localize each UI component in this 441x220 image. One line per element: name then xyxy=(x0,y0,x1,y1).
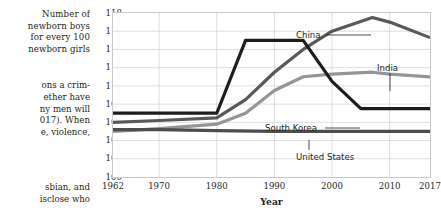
y-axis-title: Number of newborn boys for every 100 new… xyxy=(2,9,90,55)
body-text-line: ons a crim- xyxy=(2,80,90,92)
series-label-china: China xyxy=(296,31,321,40)
grid-lines xyxy=(113,13,430,177)
series-label-india: India xyxy=(377,64,398,73)
body-text-fragment: ons a crim- ether have ny men will 017).… xyxy=(2,80,90,139)
line-chart: 100102104106108110112114116118 196219701… xyxy=(96,0,433,220)
page-text-column: Number of newborn boys for every 100 new… xyxy=(0,0,96,220)
plot-svg xyxy=(113,13,430,177)
body-text-line: ny men will xyxy=(2,104,90,116)
x-axis-tick-label: 1970 xyxy=(148,182,170,191)
x-axis-title: Year xyxy=(112,196,431,207)
x-axis-tick-label: 1990 xyxy=(263,182,285,191)
y-axis-title-line: Number of xyxy=(2,9,90,21)
body-text-line: 017). When xyxy=(2,115,90,127)
x-axis-tick-label: 2000 xyxy=(321,182,343,191)
x-axis-tick-label: 1980 xyxy=(206,182,228,191)
y-axis-title-line: newborn girls xyxy=(2,44,90,56)
body-text-line: sbian, and xyxy=(2,182,90,194)
x-axis-tick-label: 1962 xyxy=(102,182,124,191)
plot-area xyxy=(112,12,431,178)
series-label-south-korea: South Korea xyxy=(265,124,317,133)
x-axis-tick-labels: 1962197019801990200020102017 xyxy=(112,180,431,194)
body-text-fragment-2: sbian, and isclose who xyxy=(2,182,90,206)
body-text-line: isclose who xyxy=(2,194,90,206)
y-axis-title-line: newborn boys xyxy=(2,21,90,33)
x-axis-tick-label: 2010 xyxy=(379,182,401,191)
series-label-united-states: United States xyxy=(296,153,354,162)
x-axis-tick-label: 2017 xyxy=(419,182,441,191)
body-text-line: ether have xyxy=(2,92,90,104)
body-text-line: e, violence, xyxy=(2,127,90,139)
y-axis-title-line: for every 100 xyxy=(2,32,90,44)
